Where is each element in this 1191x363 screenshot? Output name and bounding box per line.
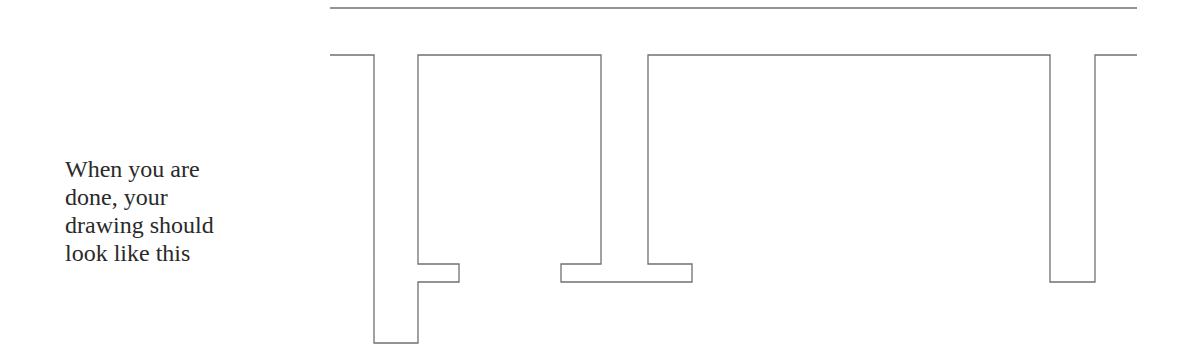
target-drawing [0,0,1191,363]
maze-outline-path [330,55,1137,343]
